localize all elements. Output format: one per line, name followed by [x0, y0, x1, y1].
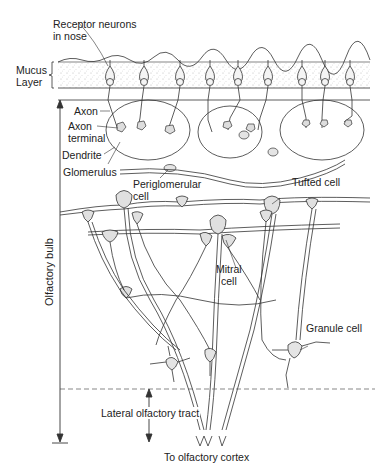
label-axon-terminal: Axon terminal	[68, 120, 105, 144]
axon-terminal-line1: Axon	[68, 120, 105, 132]
label-granule-cell: Granule cell	[306, 322, 362, 334]
arrowheads	[196, 436, 226, 446]
label-olfactory-bulb: Olfactory bulb	[43, 238, 55, 306]
mitral-line1: Mitral	[216, 263, 242, 275]
periglomerular-cells	[164, 131, 278, 172]
label-axon: Axon	[74, 105, 98, 117]
olfactory-diagram	[0, 0, 389, 469]
mucus-bracket	[49, 62, 54, 88]
mitral-line2: cell	[216, 275, 242, 287]
mucus-label-line1: Mucus	[16, 64, 47, 76]
label-glomerulus: Glomerulus	[63, 166, 117, 178]
receptor-label-line2: in nose	[53, 30, 136, 42]
label-dendrite: Dendrite	[62, 149, 102, 161]
label-mitral-cell: Mitral cell	[216, 263, 242, 287]
label-receptor-neurons: Receptor neurons in nose	[53, 18, 136, 42]
axon-terminals	[117, 120, 352, 134]
label-lateral-olfactory-tract: Lateral olfactory tract	[100, 407, 200, 419]
mucus-label-line2: Layer	[16, 76, 47, 88]
label-mucus-layer: Mucus Layer	[16, 64, 47, 88]
periglomerular-line1: Periglomerular	[133, 178, 201, 190]
label-tufted-cell: Tufted cell	[292, 176, 340, 188]
cell-bodies	[82, 191, 318, 299]
axon-terminal-line2: terminal	[68, 132, 105, 144]
receptor-label-line1: Receptor neurons	[53, 18, 136, 30]
label-periglomerular-cell: Periglomerular cell	[133, 178, 201, 202]
periglomerular-line2: cell	[133, 190, 201, 202]
label-to-olfactory-cortex: To olfactory cortex	[164, 451, 249, 463]
